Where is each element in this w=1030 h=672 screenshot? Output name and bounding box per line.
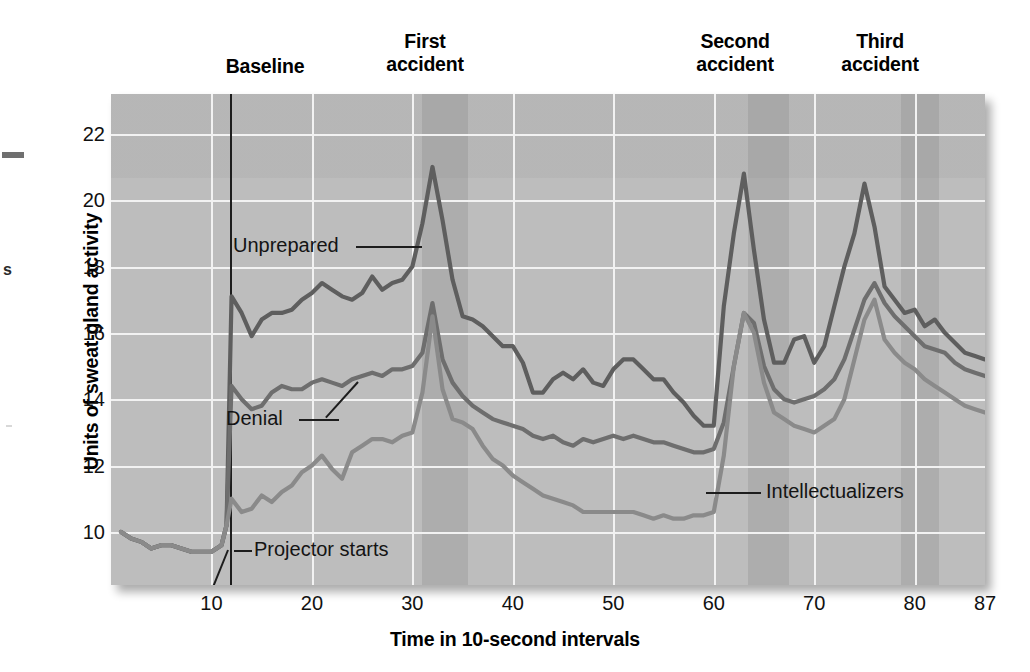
x-axis-tick-label: 40 xyxy=(502,592,524,614)
band-label-baseline: Baseline xyxy=(200,55,330,78)
page-edge-letter: s xyxy=(3,262,12,278)
annotation-unprepared: Unprepared xyxy=(233,234,339,256)
band-label-third-accident: Third accident xyxy=(810,30,950,76)
x-axis-tick-label: 50 xyxy=(602,592,624,614)
plot-area: Unprepared Denial Intellectualizers Proj… xyxy=(111,94,985,585)
band-label-second-accident: Second accident xyxy=(660,30,810,76)
x-axis-tick-labels: 102030405060708087 xyxy=(0,592,1030,626)
y-axis-tick-label: 22 xyxy=(65,124,105,144)
y-axis-tick-label: 10 xyxy=(65,522,105,542)
band-label-second-line2: accident xyxy=(660,53,810,76)
annotation-projector-starts: Projector starts xyxy=(254,538,388,560)
annotation-intellectualizers: Intellectualizers xyxy=(766,480,904,502)
x-axis-tick-label: 10 xyxy=(200,592,222,614)
x-axis-title: Time in 10-second intervals xyxy=(0,628,1030,651)
y-axis-tick-label: 16 xyxy=(65,323,105,343)
data-curves xyxy=(111,94,985,585)
page-edge-tick xyxy=(6,425,12,427)
leader-line-denial xyxy=(299,419,339,421)
band-label-third-line1: Third xyxy=(810,30,950,53)
band-label-baseline-line1: Baseline xyxy=(200,55,330,78)
x-axis-tick-label: 60 xyxy=(703,592,725,614)
leader-line-intellectualizers xyxy=(706,492,761,494)
band-label-second-line1: Second xyxy=(660,30,810,53)
band-label-first-line2: accident xyxy=(355,53,495,76)
leader-line-projector xyxy=(234,550,252,552)
band-label-third-line2: accident xyxy=(810,53,950,76)
leader-line-unprepared xyxy=(356,246,422,248)
x-axis-tick-label: 80 xyxy=(904,592,926,614)
x-axis-tick-label: 70 xyxy=(803,592,825,614)
x-axis-tick-label: 20 xyxy=(301,592,323,614)
x-axis-tick-label: 30 xyxy=(401,592,423,614)
y-axis-tick-label: 14 xyxy=(65,389,105,409)
chart-figure: s Baseline First accident Second acciden… xyxy=(0,0,1030,672)
y-axis-tick-label: 18 xyxy=(65,257,105,277)
annotation-denial: Denial xyxy=(226,407,283,429)
band-label-first-accident: First accident xyxy=(355,30,495,76)
y-axis-tick-label: 12 xyxy=(65,456,105,476)
y-axis-tick-labels: 10121416182022 xyxy=(55,0,105,672)
x-axis-tick-label: 87 xyxy=(974,592,996,614)
page-edge-dash xyxy=(2,152,24,158)
y-axis-tick-label: 20 xyxy=(65,190,105,210)
band-label-first-line1: First xyxy=(355,30,495,53)
